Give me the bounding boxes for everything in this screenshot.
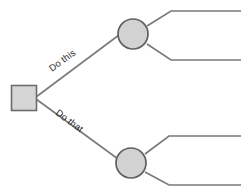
chance-node-lower-circle[interactable] [116,148,146,178]
outcome-branch-4 [145,172,241,185]
outcome-branch-1 [147,11,241,26]
outcome-branch-2 [147,44,241,60]
decision-node-square[interactable] [12,86,37,111]
branch-label-do-that: Do that [54,107,86,135]
outcome-branch-3 [145,136,241,154]
chance-node-upper-circle[interactable] [118,19,148,49]
decision-tree-diagram: Do this Do that [0,0,248,194]
decision-tree-canvas: Do this Do that [0,0,248,194]
